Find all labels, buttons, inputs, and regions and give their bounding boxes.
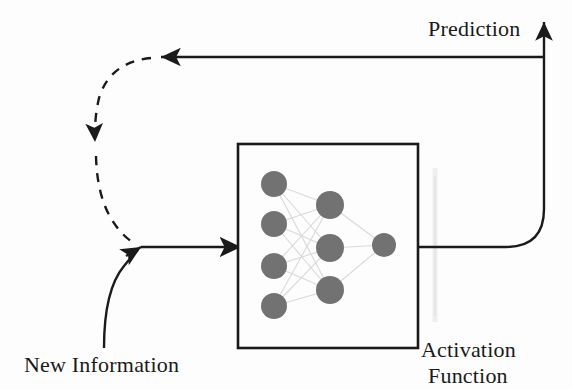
- network-node: [261, 211, 287, 237]
- feedback-dashed-loop: [95, 58, 151, 243]
- network-node: [261, 171, 287, 197]
- new-information-inflow-path: [104, 247, 241, 348]
- output-layer-nodes: [372, 233, 396, 257]
- activation-function-line1: Activation: [421, 337, 516, 362]
- activation-function-line2: Function: [421, 363, 516, 389]
- activation-function-label: ActivationFunction: [421, 337, 516, 389]
- prediction-label: Prediction: [428, 16, 520, 41]
- network-node: [372, 233, 396, 257]
- network-node: [316, 276, 344, 304]
- network-node: [316, 191, 344, 219]
- network-node: [261, 253, 287, 279]
- diagram-graphics: [0, 0, 572, 390]
- network-node: [261, 293, 287, 319]
- network-node: [316, 234, 344, 262]
- hidden-layer-nodes: [316, 191, 344, 304]
- diagram-canvas: Prediction New Information ActivationFun…: [0, 0, 572, 390]
- new-information-label: New Information: [24, 352, 179, 377]
